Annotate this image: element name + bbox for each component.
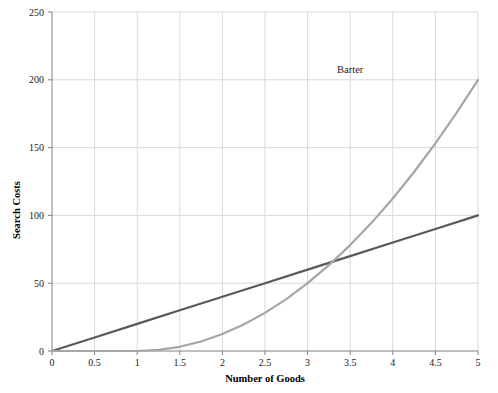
y-tick-label: 150 xyxy=(29,142,44,153)
y-axis-title: Search Costs xyxy=(11,181,22,239)
x-tick-label: 0.5 xyxy=(88,357,101,368)
x-tick-label: 2 xyxy=(220,357,225,368)
x-tick-label: 4 xyxy=(390,357,395,368)
x-tick-label: 1.5 xyxy=(174,357,187,368)
series-annotations: Barter xyxy=(337,64,364,75)
y-tick-label: 100 xyxy=(29,210,44,221)
chart-canvas: 050100150200250 00.511.522.533.544.55 Ba… xyxy=(0,0,498,393)
x-tick-label: 1 xyxy=(135,357,140,368)
search-costs-chart: 050100150200250 00.511.522.533.544.55 Ba… xyxy=(0,0,498,393)
x-tick-label: 4.5 xyxy=(429,357,442,368)
annotation-barter: Barter xyxy=(337,64,364,75)
x-tick-label: 0 xyxy=(50,357,55,368)
x-tick-label: 5 xyxy=(476,357,481,368)
y-tick-label: 250 xyxy=(29,7,44,18)
y-tick-label: 50 xyxy=(34,278,44,289)
x-tick-label: 3.5 xyxy=(344,357,357,368)
y-tick-label: 200 xyxy=(29,74,44,85)
x-tick-label: 3 xyxy=(305,357,310,368)
x-tick-label: 2.5 xyxy=(259,357,272,368)
y-tick-label: 0 xyxy=(39,346,44,357)
x-axis-title: Number of Goods xyxy=(225,373,305,384)
